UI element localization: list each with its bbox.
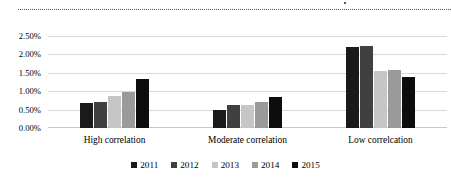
bar-2015[interactable]	[402, 77, 415, 128]
bar-2013[interactable]	[241, 105, 254, 128]
x-axis-category-label: Low correlcation	[314, 133, 447, 149]
legend-swatch-icon	[171, 162, 177, 168]
legend-label: 2013	[221, 160, 239, 170]
y-axis-tick-label: 2.00%	[19, 49, 41, 59]
bar-2013[interactable]	[108, 96, 121, 128]
bar-2011[interactable]	[346, 47, 359, 128]
selection-marquee-handle	[344, 2, 346, 4]
y-axis-tick-label: 0.50%	[19, 105, 41, 115]
bar-2015[interactable]	[269, 97, 282, 128]
selection-marquee-line	[18, 9, 451, 10]
bar-2014[interactable]	[122, 92, 135, 128]
bar-group	[181, 36, 314, 128]
bar-2014[interactable]	[255, 102, 268, 128]
bar-2012[interactable]	[227, 105, 240, 128]
legend-label: 2011	[140, 160, 158, 170]
bar-group	[314, 36, 447, 128]
y-axis-tick-label: 1.00%	[19, 86, 41, 96]
bar-chart: 2.50%2.00%1.50%1.00%0.50%0.00% High corr…	[0, 0, 451, 186]
bars	[314, 36, 447, 128]
x-axis-category-label: High correlation	[48, 133, 181, 149]
legend-label: 2014	[261, 160, 279, 170]
plot-area	[48, 36, 447, 128]
legend-swatch-icon	[212, 162, 218, 168]
bar-2015[interactable]	[136, 79, 149, 128]
bar-2014[interactable]	[388, 70, 401, 129]
bars	[48, 36, 181, 128]
bar-2011[interactable]	[80, 103, 93, 128]
chart-legend: 20112012201320142015	[0, 160, 451, 170]
y-axis-tick-label: 1.50%	[19, 68, 41, 78]
bar-groups	[48, 36, 447, 128]
legend-label: 2012	[180, 160, 198, 170]
y-axis-tick-label: 0.00%	[19, 123, 41, 133]
legend-item-2013[interactable]: 2013	[212, 160, 239, 170]
legend-swatch-icon	[292, 162, 298, 168]
legend-item-2011[interactable]: 2011	[131, 160, 158, 170]
legend-item-2014[interactable]: 2014	[252, 160, 279, 170]
legend-swatch-icon	[252, 162, 258, 168]
x-axis-category-labels: High correlationModerate correlationLow …	[48, 133, 447, 149]
legend-label: 2015	[301, 160, 319, 170]
legend-item-2012[interactable]: 2012	[171, 160, 198, 170]
legend-swatch-icon	[131, 162, 137, 168]
y-axis-tick-labels: 2.50%2.00%1.50%1.00%0.50%0.00%	[0, 30, 44, 134]
bar-2011[interactable]	[213, 110, 226, 128]
bar-2012[interactable]	[360, 46, 373, 128]
legend-item-2015[interactable]: 2015	[292, 160, 319, 170]
bar-2013[interactable]	[374, 71, 387, 128]
y-axis-tick-label: 2.50%	[19, 31, 41, 41]
bar-2012[interactable]	[94, 102, 107, 128]
x-axis-category-label: Moderate correlation	[181, 133, 314, 149]
bar-group	[48, 36, 181, 128]
bars	[181, 36, 314, 128]
